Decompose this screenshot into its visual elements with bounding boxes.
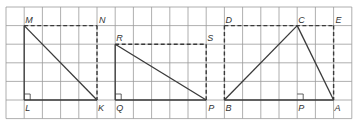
vertex-label-N: N [99,15,106,25]
right-angle-marker [115,94,121,100]
right-angle-marker [297,94,303,100]
right-angle-marker [24,94,30,100]
vertex-labels: MNLKRSQPDCEBPA [25,15,342,113]
vertex-label-L: L [25,103,30,113]
vertex-label-D: D [225,15,232,25]
grid-diagram: MNLKRSQPDCEBPA [0,0,358,130]
vertex-label-E: E [336,15,343,25]
vertex-label-K: K [98,103,105,113]
vertex-label-M: M [25,15,33,25]
vertex-label-Q: Q [116,103,123,113]
vertex-label-B: B [225,103,231,113]
segment-RP [115,44,206,100]
triangle-RQP [115,44,206,100]
vertex-label-P: P [208,103,214,113]
vertex-label-S: S [207,33,213,43]
vertex-label-R: R [116,33,123,43]
vertex-label-A: A [334,103,341,113]
vertex-label-P: P [298,103,304,113]
vertex-label-C: C [298,15,305,25]
